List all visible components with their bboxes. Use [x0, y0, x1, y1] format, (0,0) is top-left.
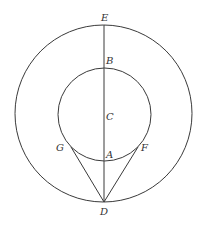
label-G: G — [56, 142, 64, 153]
line-G-D — [71, 147, 104, 202]
label-C: C — [106, 111, 114, 122]
geometry-diagram: E B C A G F D — [0, 0, 202, 228]
label-E: E — [100, 12, 109, 23]
label-F: F — [140, 142, 149, 153]
label-A: A — [105, 149, 113, 160]
label-B: B — [105, 55, 113, 66]
label-D: D — [99, 206, 108, 217]
